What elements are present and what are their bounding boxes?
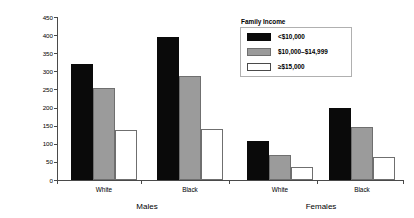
bar bbox=[247, 141, 269, 180]
y-tick-label: 450 bbox=[29, 14, 53, 21]
y-tick-label: 350 bbox=[29, 50, 53, 57]
y-tick-label: 400 bbox=[29, 32, 53, 39]
x-supergroup-label: Males bbox=[71, 202, 223, 212]
y-tick-label: 150 bbox=[29, 122, 53, 129]
bar bbox=[71, 64, 93, 180]
x-group-label: White bbox=[247, 186, 313, 194]
y-tick-label: 100 bbox=[29, 140, 53, 147]
y-tick-label: 200 bbox=[29, 104, 53, 111]
x-supergroup-label: Females bbox=[247, 202, 395, 212]
x-axis-tick bbox=[403, 180, 404, 184]
y-tick-mark bbox=[54, 53, 57, 54]
legend-swatch-white bbox=[247, 63, 271, 71]
y-axis-line bbox=[57, 17, 58, 181]
x-axis-tick bbox=[141, 180, 142, 184]
legend-swatch-gray bbox=[247, 48, 271, 56]
legend: <$10,000$10,000–$14,999≥$15,000 bbox=[240, 27, 352, 77]
y-tick-mark bbox=[54, 162, 57, 163]
bar-chart: Death Rate per 100,000 Population 450400… bbox=[0, 0, 414, 218]
y-tick-label: 250 bbox=[29, 86, 53, 93]
x-group-label: Black bbox=[157, 186, 223, 194]
bar bbox=[179, 76, 201, 180]
bar bbox=[373, 157, 395, 180]
x-axis-tick bbox=[57, 180, 58, 184]
x-group-label: Black bbox=[329, 186, 395, 194]
y-tick-mark bbox=[54, 108, 57, 109]
x-axis-tick bbox=[317, 180, 318, 184]
bar bbox=[329, 108, 351, 180]
bar bbox=[201, 129, 223, 180]
x-group-label: White bbox=[71, 186, 137, 194]
legend-label: $10,000–$14,999 bbox=[278, 48, 328, 56]
bar bbox=[115, 130, 137, 180]
legend-swatch-black bbox=[247, 33, 271, 41]
y-tick-mark bbox=[54, 17, 57, 18]
y-tick-mark bbox=[54, 89, 57, 90]
y-tick-mark bbox=[54, 144, 57, 145]
legend-title: Family Income bbox=[241, 18, 285, 26]
bar bbox=[351, 127, 373, 180]
x-axis-line bbox=[57, 180, 404, 181]
bar bbox=[93, 88, 115, 180]
bar bbox=[157, 37, 179, 180]
y-tick-label: 300 bbox=[29, 68, 53, 75]
bar bbox=[291, 167, 313, 180]
legend-label: ≥$15,000 bbox=[278, 63, 305, 71]
y-tick-label: 0 bbox=[29, 177, 53, 184]
x-axis-tick bbox=[229, 180, 230, 184]
y-tick-mark bbox=[54, 71, 57, 72]
y-tick-mark bbox=[54, 126, 57, 127]
bar bbox=[269, 155, 291, 180]
y-tick-mark bbox=[54, 35, 57, 36]
y-tick-label: 50 bbox=[29, 158, 53, 165]
legend-label: <$10,000 bbox=[278, 33, 305, 41]
